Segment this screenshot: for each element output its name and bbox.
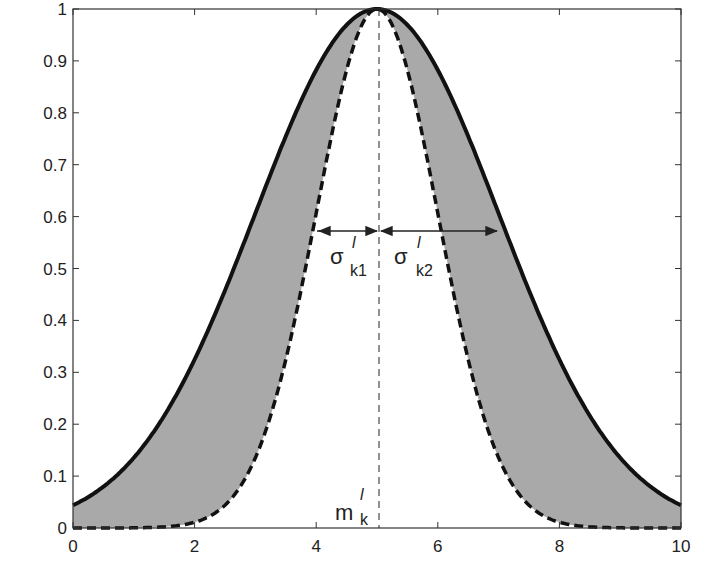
y-tick-label: 0.9 <box>43 52 67 71</box>
svg-text:k: k <box>360 511 369 528</box>
x-tick-label: 8 <box>555 537 564 556</box>
y-tick-label: 0 <box>58 519 67 538</box>
x-tick-label: 0 <box>68 537 77 556</box>
x-tick-label: 10 <box>672 537 691 556</box>
x-tick-label: 2 <box>190 537 199 556</box>
uncertainty-fill <box>73 9 681 528</box>
svg-text:l: l <box>360 486 364 503</box>
y-tick-label: 1 <box>58 0 67 19</box>
y-tick-label: 0.4 <box>43 311 67 330</box>
y-tick-label: 0.7 <box>43 156 67 175</box>
y-tick-label: 0.2 <box>43 415 67 434</box>
svg-text:l: l <box>417 234 421 251</box>
x-tick-label: 4 <box>311 537 320 556</box>
y-tick-label: 0.3 <box>43 363 67 382</box>
svg-text:l: l <box>352 234 356 251</box>
y-tick-label: 0.6 <box>43 208 67 227</box>
svg-text:k2: k2 <box>416 262 433 279</box>
sigma1-label: σ <box>330 244 344 269</box>
gaussian-membership-chart: 024681000.10.20.30.40.50.60.70.80.91 σ l… <box>0 0 727 586</box>
y-tick-label: 0.8 <box>43 104 67 123</box>
x-tick-label: 6 <box>433 537 442 556</box>
y-tick-label: 0.1 <box>43 467 67 486</box>
svg-text:k1: k1 <box>350 262 367 279</box>
y-tick-label: 0.5 <box>43 260 67 279</box>
mean-label: m <box>335 500 353 525</box>
uncertainty-region <box>73 9 681 528</box>
sigma2-label: σ <box>394 244 408 269</box>
